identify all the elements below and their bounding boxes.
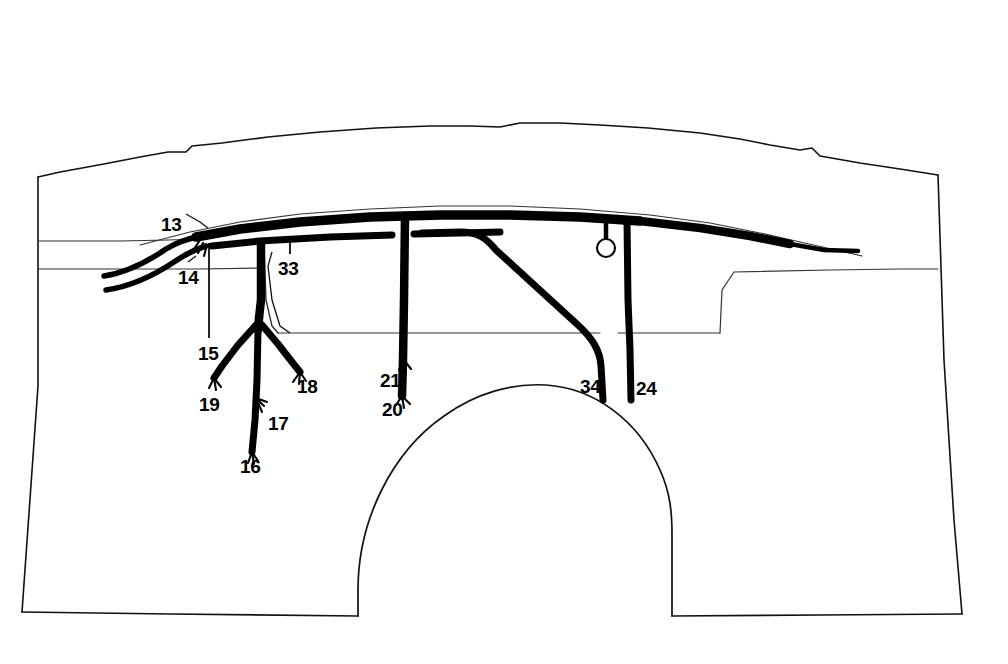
branch-to-16 <box>252 330 258 452</box>
left-body-edge <box>22 177 38 612</box>
branch-to-18 <box>262 325 300 372</box>
connector-ring-icon <box>597 239 615 257</box>
ref-label-19: 19 <box>199 395 220 414</box>
rear-quarter-panel-line <box>720 269 938 333</box>
ref-label-15: 15 <box>198 344 219 363</box>
diagonal-branch-34 <box>422 232 603 400</box>
ref-label-17: 17 <box>268 414 289 433</box>
ref-label-13: 13 <box>161 215 182 234</box>
patent-figure: 13 14 15 16 17 18 19 20 21 24 33 34 <box>0 0 1008 664</box>
ref-label-21: 21 <box>380 371 401 390</box>
ref-label-20: 20 <box>382 400 403 419</box>
upper-window-branch-33 <box>212 235 392 246</box>
front-pillar-drop <box>259 244 261 318</box>
ref-label-33: 33 <box>278 259 299 278</box>
leader-line-13 <box>186 214 208 228</box>
leader-line-14 <box>188 256 196 262</box>
rocker-panel-bottom <box>22 612 358 616</box>
rocker-panel-bottom-right <box>672 614 962 616</box>
ref-label-34: 34 <box>580 377 601 396</box>
ref-label-16: 16 <box>240 457 261 476</box>
ref-label-18: 18 <box>297 377 318 396</box>
figure-canvas <box>0 0 1008 664</box>
ref-label-14: 14 <box>178 268 199 287</box>
roof-contour-line <box>38 123 938 177</box>
ref-label-24: 24 <box>636 379 657 398</box>
cowl-reference-line <box>38 239 200 241</box>
frayed-end-19 <box>209 378 221 390</box>
branch-to-19 <box>214 325 256 378</box>
rear-drop-24 <box>627 220 631 400</box>
right-body-edge <box>938 175 962 614</box>
wheel-arch-outline <box>358 385 672 616</box>
beltline-reference-line <box>38 268 258 269</box>
